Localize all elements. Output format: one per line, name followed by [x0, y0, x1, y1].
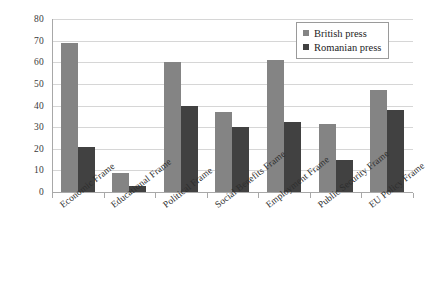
x-axis-tick [155, 193, 156, 198]
legend-label-british-press: British press [314, 28, 367, 39]
y-axis-tick-label-50: 50 [0, 79, 44, 89]
x-axis-tick [104, 193, 105, 198]
x-axis-tick [413, 193, 414, 198]
legend-item-romanian-press: Romanian press [303, 40, 381, 54]
y-axis-tick-label-0: 0 [0, 187, 44, 197]
legend-swatch-icon-british-press [303, 30, 309, 36]
bar [215, 112, 232, 192]
bar [61, 43, 78, 192]
bar [267, 60, 284, 192]
y-axis-tick-label-70: 70 [0, 36, 44, 46]
x-axis-tick [361, 193, 362, 198]
legend-swatch-icon-romanian-press [303, 44, 309, 50]
y-axis-tick-label-40: 40 [0, 101, 44, 111]
x-axis-tick [207, 193, 208, 198]
x-axis-tick [310, 193, 311, 198]
x-axis-tick [258, 193, 259, 198]
x-axis-tick [52, 193, 53, 198]
y-axis-tick-label-60: 60 [0, 57, 44, 67]
y-axis-tick-label-80: 80 [0, 14, 44, 24]
y-axis-tick-label-10: 10 [0, 165, 44, 175]
bar [164, 62, 181, 192]
legend-label-romanian-press: Romanian press [314, 42, 381, 53]
bar-group [52, 19, 104, 192]
bar [370, 90, 387, 192]
y-axis-tick-label-30: 30 [0, 122, 44, 132]
y-axis-tick-label-20: 20 [0, 144, 44, 154]
legend-item-british-press: British press [303, 26, 381, 40]
chart-legend: British press Romanian press [296, 22, 389, 59]
bar-group [207, 19, 259, 192]
